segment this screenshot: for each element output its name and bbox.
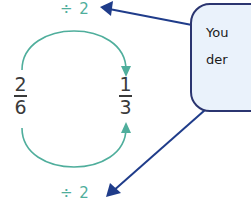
speech-callout: You der [190,3,251,112]
pointer-line-top [104,8,192,25]
pointer-arrowhead-top [100,1,113,16]
divide-by-two-bottom-label: ÷ 2 [60,186,90,201]
callout-line-1: You [206,19,251,46]
denominator: 6 [14,98,26,117]
numerator: 1 [119,75,131,94]
divide-by-two-top-label: ÷ 2 [60,2,90,17]
equivalent-fractions-diagram: ÷ 2 ÷ 2 2 6 1 3 You der [0,0,251,202]
callout-line-2: der [206,46,251,73]
denominator: 3 [119,98,131,117]
numerator: 2 [14,75,26,94]
top-arc-arrow [22,31,126,70]
bottom-arc-arrowhead [121,122,131,133]
fraction-two-sixths: 2 6 [14,75,27,117]
bottom-arc-arrow [22,128,126,167]
fraction-one-third: 1 3 [119,75,132,117]
